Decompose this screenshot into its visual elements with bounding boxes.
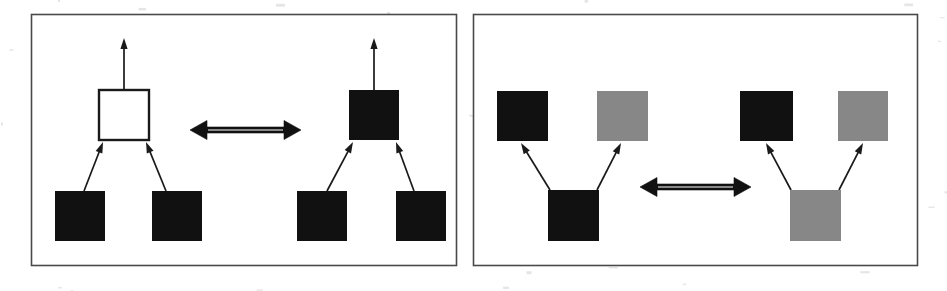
left-rule-panel — [32, 15, 457, 266]
paper-speck — [928, 207, 934, 208]
figure-root — [0, 0, 947, 291]
node-bottom-left[interactable] — [297, 191, 347, 241]
node-bottom[interactable] — [548, 190, 599, 241]
node-top[interactable] — [99, 90, 149, 140]
paper-speck — [276, 4, 285, 7]
node-bottom[interactable] — [790, 190, 841, 241]
paper-speck — [10, 49, 14, 51]
paper-speck — [58, 287, 62, 288]
paper-speck — [58, 0, 60, 2]
node-top-right[interactable] — [838, 91, 888, 141]
paper-speck — [256, 289, 263, 290]
paper-speck — [938, 41, 941, 42]
diagram-canvas — [0, 0, 947, 291]
paper-speck — [503, 287, 509, 289]
paper-speck — [904, 4, 913, 7]
node-top-left[interactable] — [740, 91, 793, 141]
paper-speck — [139, 8, 146, 10]
paper-speck — [585, 0, 589, 3]
node-top[interactable] — [349, 90, 399, 140]
right-rule-panel — [474, 15, 918, 266]
paper-speck — [527, 271, 532, 274]
paper-speck — [1, 123, 3, 126]
node-bottom-right[interactable] — [152, 191, 202, 241]
paper-speck — [940, 17, 945, 18]
node-bottom-left[interactable] — [55, 191, 105, 241]
node-top-right[interactable] — [597, 91, 648, 141]
node-bottom-right[interactable] — [396, 191, 446, 241]
node-top-left[interactable] — [497, 91, 548, 141]
paper-speck — [683, 284, 686, 286]
paper-speck — [609, 267, 618, 269]
paper-speck — [860, 271, 869, 273]
